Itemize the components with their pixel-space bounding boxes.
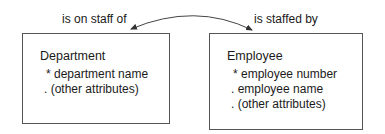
entity-department: Department * department name . (other at…: [22, 33, 170, 124]
attribute-row: . (other attributes): [44, 82, 139, 96]
entity-title: Department: [40, 49, 105, 63]
attribute-row: * employee number: [233, 67, 337, 81]
relationship-label-left: is on staff of: [62, 12, 126, 26]
attribute-row: * department name: [46, 67, 148, 81]
attribute-text: employee number: [241, 67, 337, 81]
attribute-text: employee name: [238, 82, 323, 96]
entity-employee: Employee * employee number . employee na…: [209, 33, 363, 130]
identifier-marker: *: [233, 67, 238, 81]
relationship-label-right: is staffed by: [254, 12, 318, 26]
attribute-row: . (other attributes): [231, 97, 326, 111]
attribute-text: department name: [54, 67, 148, 81]
attribute-marker: .: [231, 82, 234, 96]
attribute-marker: .: [231, 97, 234, 111]
attribute-text: (other attributes): [51, 82, 139, 96]
entity-title: Employee: [227, 49, 283, 63]
attribute-row: . employee name: [231, 82, 323, 96]
attribute-text: (other attributes): [238, 97, 326, 111]
identifier-marker: *: [46, 67, 51, 81]
attribute-marker: .: [44, 82, 47, 96]
